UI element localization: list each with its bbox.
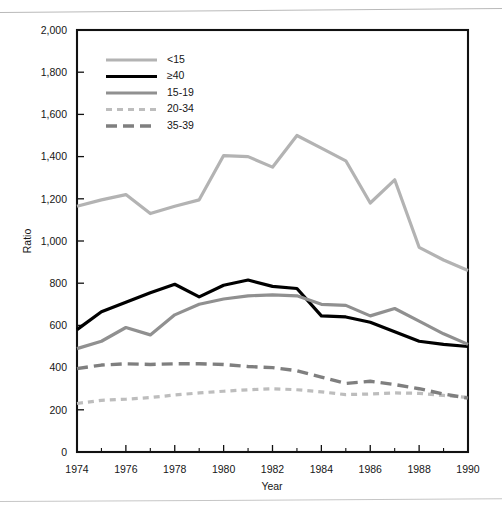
y-tick-label: 1,000 <box>41 235 67 247</box>
legend-label-1: ≥40 <box>167 69 185 81</box>
legend-label-3: 20-34 <box>167 102 194 114</box>
x-tick-label: 1982 <box>261 463 285 475</box>
y-tick-label: 2,000 <box>41 24 67 36</box>
y-tick-label: 1,400 <box>41 150 67 162</box>
page-rule-top <box>0 8 502 13</box>
legend-label-2: 15-19 <box>167 86 194 98</box>
legend-label-0: <15 <box>167 53 185 65</box>
series-line-15 <box>77 136 468 271</box>
series-lines <box>77 136 468 404</box>
series-line-1519 <box>77 295 468 349</box>
x-tick-label: 1990 <box>456 463 480 475</box>
legend-label-4: 35-39 <box>167 119 194 131</box>
x-tick-label: 1980 <box>212 463 236 475</box>
y-tick-label: 400 <box>49 361 67 373</box>
x-tick-label: 1984 <box>310 463 334 475</box>
x-tick-label: 1974 <box>65 463 89 475</box>
chart-figure: 02004006008001,0001,2001,4001,6001,8002,… <box>0 18 502 496</box>
y-tick-label: 200 <box>49 404 67 416</box>
x-axis-title: Year <box>261 480 283 492</box>
y-tick-label: 600 <box>49 319 67 331</box>
x-tick-label: 1976 <box>114 463 138 475</box>
series-line-40 <box>77 280 468 346</box>
page-rule-bottom <box>0 498 502 502</box>
y-tick-label: 1,200 <box>41 193 67 205</box>
line-chart: 02004006008001,0001,2001,4001,6001,8002,… <box>0 18 502 496</box>
x-tick-label: 1988 <box>407 463 431 475</box>
y-axis-title: Ratio <box>21 229 33 254</box>
y-tick-label: 1,800 <box>41 66 67 78</box>
y-tick-label: 800 <box>49 277 67 289</box>
y-tick-label: 1,600 <box>41 108 67 120</box>
series-line-2034 <box>77 389 468 404</box>
y-tick-label: 0 <box>61 446 67 458</box>
x-axis-ticks: 197419761978198019821984198619881990 <box>65 445 480 475</box>
x-tick-label: 1986 <box>359 463 383 475</box>
chart-legend: <15≥4015-1920-3435-39 <box>106 53 194 131</box>
x-tick-label: 1978 <box>163 463 187 475</box>
